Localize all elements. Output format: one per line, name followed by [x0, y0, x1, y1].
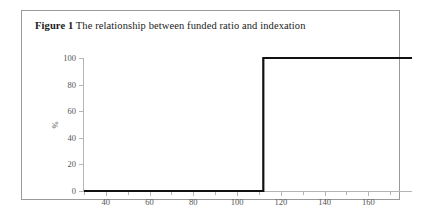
x-tick-label: 40: [102, 197, 111, 207]
figure-caption-text: The relationship between funded ratio an…: [76, 20, 306, 31]
x-tick-mark-minor: [346, 191, 347, 195]
x-tick-mark-minor: [303, 191, 304, 195]
x-tick-mark-minor: [390, 191, 391, 195]
x-tick-label: 60: [145, 197, 154, 207]
y-axis-title: %: [50, 121, 60, 128]
y-tick-label: 80: [68, 80, 77, 90]
y-tick-label: 20: [68, 159, 77, 169]
y-tick-label: 40: [68, 133, 77, 143]
x-tick-label: 140: [318, 197, 331, 207]
figure-box: Figure 1 The relationship between funded…: [21, 10, 400, 200]
x-tick-label: 160: [362, 197, 375, 207]
y-tick-label: 0: [72, 186, 76, 196]
figure-screenshot: Figure 1 The relationship between funded…: [0, 0, 421, 213]
x-tick-mark: [368, 191, 369, 196]
x-tick-label: 120: [274, 197, 287, 207]
data-series-indexation: [84, 58, 412, 191]
y-tick-label: 100: [63, 53, 76, 63]
figure-caption: Figure 1 The relationship between funded…: [35, 20, 306, 31]
y-tick-label: 60: [68, 106, 77, 116]
plot-area: % 020406080100 406080100120140160: [84, 58, 412, 191]
x-tick-label: 100: [231, 197, 244, 207]
figure-caption-label: Figure 1: [35, 20, 73, 31]
x-tick-mark: [281, 191, 282, 196]
x-tick-mark: [325, 191, 326, 196]
x-tick-label: 80: [189, 197, 198, 207]
